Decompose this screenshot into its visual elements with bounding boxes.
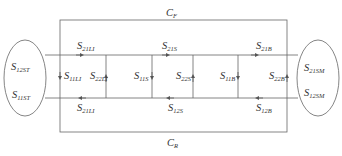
left-ellipse bbox=[4, 40, 46, 116]
label-cf: CF bbox=[166, 7, 178, 19]
label-v-11li: S11LI bbox=[64, 70, 82, 82]
label-top-2: S21S bbox=[162, 40, 178, 52]
label-v-22b: S22B bbox=[269, 70, 285, 82]
signal-flow-diagram: CF CR S12ST S11ST S21SM S12SM S21LI S21S… bbox=[0, 0, 342, 156]
label-v-22s: S22S bbox=[176, 70, 192, 82]
label-v-11s: S11S bbox=[134, 70, 149, 82]
label-top-3: S21B bbox=[256, 40, 272, 52]
label-bottom-3: S12B bbox=[256, 102, 272, 114]
right-ellipse bbox=[297, 40, 339, 116]
label-top-1: S21LI bbox=[77, 40, 95, 52]
label-v-11b: S11B bbox=[220, 70, 235, 82]
label-bottom-1: S21LI bbox=[77, 102, 95, 114]
label-cr: CR bbox=[167, 137, 178, 149]
label-bottom-2: S12S bbox=[168, 102, 184, 114]
